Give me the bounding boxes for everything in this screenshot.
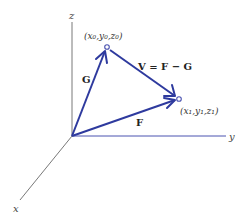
vector-f-label: F xyxy=(136,117,143,128)
vector-diagram: z y x (x₀,y₀,z₀) (x₁,y₁,z₁) G F V = F − … xyxy=(0,0,247,224)
point-p1 xyxy=(177,97,182,102)
vector-v-label: V = F − G xyxy=(137,61,192,72)
vector-g xyxy=(72,51,107,136)
z-axis-label: z xyxy=(68,10,75,21)
point-p0 xyxy=(105,45,110,50)
vector-v xyxy=(110,50,175,96)
point-p0-label: (x₀,y₀,z₀) xyxy=(84,31,123,41)
y-axis-label: y xyxy=(228,131,235,142)
x-axis xyxy=(20,136,72,200)
vector-g-label: G xyxy=(82,74,91,85)
point-p1-label: (x₁,y₁,z₁) xyxy=(180,106,219,116)
vector-f xyxy=(72,98,175,136)
x-axis-label: x xyxy=(13,203,19,214)
